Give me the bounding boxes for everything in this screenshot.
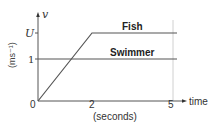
x-tick-label-5: 5 (168, 99, 174, 110)
fish-series-label: Fish (122, 21, 143, 32)
y-tick-label-1: 1 (28, 54, 34, 65)
origin-label: 0 (30, 99, 36, 110)
x-tick-label-2: 2 (89, 99, 95, 110)
y-axis-arrow-icon (36, 12, 40, 17)
swimmer-series-label: Swimmer (110, 47, 155, 58)
x-axis-label: time (189, 96, 208, 107)
y-tick-label-U: U (25, 27, 35, 40)
y-units-label: (ms⁻¹) (7, 42, 17, 68)
y-axis-label: v (42, 8, 49, 21)
x-axis-arrow-icon (182, 99, 187, 103)
x-units-label: (seconds) (93, 111, 137, 122)
fish-line (38, 33, 177, 101)
velocity-time-chart: v U 1 (ms⁻¹) 0 2 5 time (seconds) Fish S… (0, 0, 214, 127)
